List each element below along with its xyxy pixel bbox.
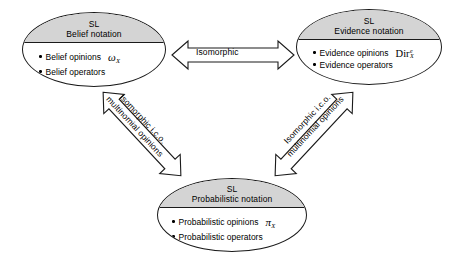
arrow-label-left-diagonal: Isomorphic i.c.o. multinomial opinions bbox=[104, 87, 174, 160]
arrow-label-isomorphic: Isomorphic bbox=[196, 47, 239, 57]
arrow-label-right-diagonal: Isomorphic i.c.o. multinomial opinions bbox=[277, 87, 347, 160]
arrow-label-layer: Isomorphic Isomorphic i.c.o. multinomial… bbox=[0, 0, 454, 257]
diagram-canvas: Isomorphic Isomorphic i.c.o. multinomial… bbox=[0, 0, 454, 257]
